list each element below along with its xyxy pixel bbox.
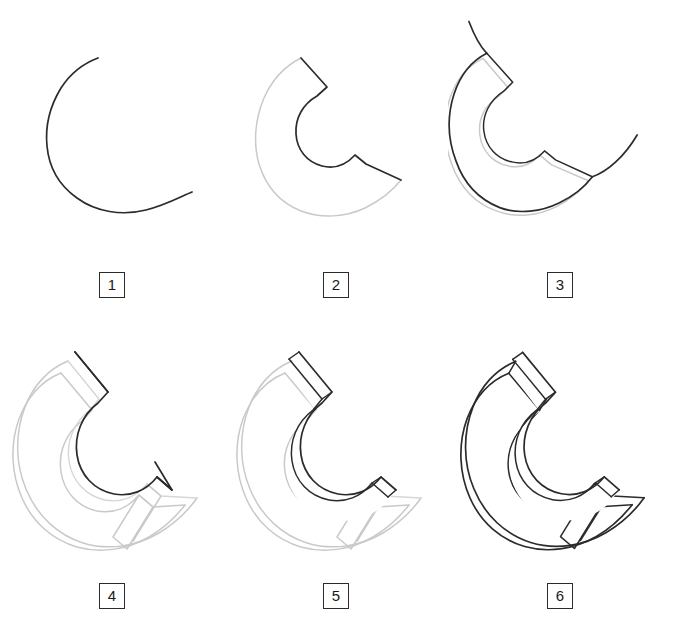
step-number-box-5: 5 — [323, 583, 349, 609]
tail-arc-lower-right — [592, 135, 637, 177]
inner-ribbon-mask — [286, 352, 396, 521]
step-number-4: 4 — [108, 588, 116, 603]
step-label-wrap-4: 4 — [0, 569, 224, 622]
step-drawing-5 — [224, 311, 448, 569]
step-drawing-2 — [224, 0, 448, 258]
step-panel-4: 4 — [0, 311, 224, 622]
offset-c-contour-dark — [449, 53, 592, 211]
step-label-wrap-1: 1 — [0, 258, 224, 311]
base-inner-ribbon-gray — [60, 373, 185, 512]
prev-inner-c-gray — [480, 58, 589, 180]
guide-curve-open-c — [47, 58, 192, 213]
step-drawing-3 — [448, 0, 672, 258]
step-panel-1: 1 — [0, 0, 224, 311]
step-number-box-3: 3 — [547, 272, 573, 298]
top-face-c-dark — [75, 352, 172, 495]
step-number-box-2: 2 — [323, 272, 349, 298]
step-drawing-6 — [448, 311, 672, 569]
step-number-2: 2 — [332, 277, 340, 292]
inner-c-outline-dark — [296, 58, 401, 180]
step-label-wrap-3: 3 — [448, 258, 672, 311]
step-label-wrap-2: 2 — [224, 258, 448, 311]
step-number-1: 1 — [108, 277, 116, 292]
construction-steps-sheet: 1 2 3 — [0, 0, 673, 622]
step-panel-3: 3 — [448, 0, 672, 311]
step-drawing-4 — [0, 311, 224, 569]
step-number-box-1: 1 — [99, 272, 125, 298]
base-outer-bottom-gray — [18, 361, 197, 547]
step-drawing-1 — [0, 0, 224, 258]
step-panel-5: 5 — [224, 311, 448, 622]
step-label-wrap-5: 5 — [224, 569, 448, 622]
step-number-box-6: 6 — [547, 583, 573, 609]
step-number-3: 3 — [556, 277, 564, 292]
step-label-wrap-6: 6 — [448, 569, 672, 622]
step-number-box-4: 4 — [99, 583, 125, 609]
step-number-5: 5 — [332, 588, 340, 603]
step-number-6: 6 — [556, 588, 564, 603]
tail-arc-upper-left — [469, 21, 487, 53]
step-panel-6: 6 — [448, 311, 672, 622]
prev-outer-c-gray — [448, 58, 588, 215]
outer-c-contour-gray — [256, 58, 401, 216]
offset-inner-c-dark — [484, 53, 593, 176]
step-panel-2: 2 — [224, 0, 448, 311]
top-face-upper-tab-edge-dark — [75, 352, 108, 392]
top-ribbon-mask — [510, 352, 620, 520]
